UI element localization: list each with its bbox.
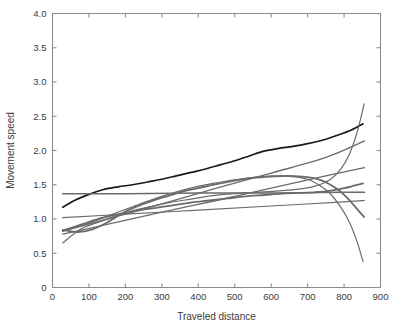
x-tick-label: 300: [154, 291, 170, 302]
series-line-shallow-line-upper: [63, 201, 365, 218]
y-tick-label: 1.5: [33, 179, 46, 190]
series-line-mean-speed-curve: [63, 124, 363, 208]
line-chart: 0100200300400500600700800900 00.51.01.52…: [0, 0, 401, 329]
x-axis-title: Traveled distance: [177, 311, 256, 322]
y-tick-label: 1.0: [33, 213, 46, 224]
data-series-group: [63, 104, 365, 262]
series-line-diagonal-line-steep: [63, 141, 365, 231]
y-axis-ticks: [53, 14, 381, 288]
x-tick-label: 200: [117, 291, 133, 302]
y-tick-label: 3.0: [33, 76, 46, 87]
x-tick-label: 100: [81, 291, 97, 302]
x-tick-label: 900: [373, 291, 389, 302]
y-tick-label: 4.0: [33, 8, 46, 19]
x-tick-label: 400: [190, 291, 206, 302]
chart-figure: 0100200300400500600700800900 00.51.01.52…: [0, 0, 401, 329]
axes-group: [53, 14, 381, 288]
x-tick-label: 500: [227, 291, 243, 302]
x-axis-ticks: [53, 14, 381, 288]
series-line-diagonal-line-steady: [63, 168, 365, 234]
y-tick-label: 2.0: [33, 145, 46, 156]
y-tick-label: 0: [41, 282, 46, 293]
x-axis-tick-labels: 0100200300400500600700800900: [50, 291, 389, 302]
x-tick-label: 800: [336, 291, 352, 302]
y-tick-label: 0.5: [33, 248, 46, 259]
y-tick-label: 2.5: [33, 111, 46, 122]
y-axis-tick-labels: 00.51.01.52.02.53.03.54.0: [33, 8, 46, 293]
series-line-lower-rising-curve: [63, 183, 363, 230]
x-tick-label: 0: [50, 291, 55, 302]
y-axis-title: Movement speed: [5, 112, 16, 189]
series-line-flat-line-mid: [63, 192, 365, 193]
y-tick-label: 3.5: [33, 42, 46, 53]
x-tick-label: 700: [300, 291, 316, 302]
x-tick-label: 600: [263, 291, 279, 302]
